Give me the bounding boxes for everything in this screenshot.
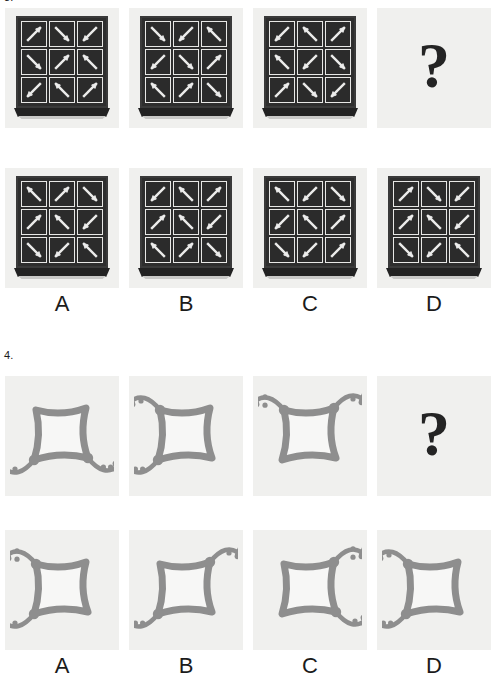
arrow-cell-ne-icon — [325, 237, 351, 263]
arrow-cell-nw-icon — [269, 49, 295, 75]
figure-tile — [5, 8, 119, 128]
option-letter-b: B — [179, 292, 194, 316]
test-page: 3. ? ABCD 4. ? ABCD — [0, 0, 498, 693]
arrow-cell-se-icon — [269, 237, 295, 263]
arrow-cell-ne-icon — [393, 209, 419, 235]
option-b[interactable]: B — [124, 168, 248, 316]
option-letter-c: C — [302, 292, 318, 316]
figure-tile[interactable] — [129, 530, 243, 650]
arrow-cell-nw-icon — [49, 77, 75, 103]
prompt-figure-2 — [124, 376, 248, 496]
arrow-grid-shadow — [16, 276, 108, 279]
arrow-cell-sw-icon — [21, 77, 47, 103]
arrow-cell-nw-icon — [77, 49, 103, 75]
blob-figure — [10, 384, 114, 488]
option-c[interactable]: C — [248, 168, 372, 316]
arrow-grid-shadow — [16, 116, 108, 119]
question-3-prompt-row: ? — [0, 8, 498, 128]
prompt-missing: ? — [372, 8, 496, 128]
option-letter-b: B — [179, 654, 194, 678]
option-letter-d: D — [426, 654, 442, 678]
arrow-cell-se-icon — [325, 49, 351, 75]
arrow-cell-se-icon — [201, 77, 227, 103]
arrow-grid — [14, 16, 110, 120]
arrow-cell-sw-icon — [77, 209, 103, 235]
arrow-grid-face — [264, 176, 356, 268]
arrow-cell-nw-icon — [173, 209, 199, 235]
arrow-grid-face — [264, 16, 356, 108]
blob-figure — [134, 384, 238, 488]
figure-tile[interactable] — [377, 530, 491, 650]
option-c[interactable]: C — [248, 530, 372, 678]
option-a[interactable]: A — [0, 168, 124, 316]
arrow-cell-se-icon — [21, 237, 47, 263]
arrow-cell-nw-icon — [145, 77, 171, 103]
arrow-grid-base — [262, 108, 358, 117]
blob-figure — [382, 538, 486, 642]
question-4-option-row: ABCD — [0, 530, 498, 678]
arrow-grid-shadow — [388, 276, 480, 279]
figure-tile[interactable] — [5, 530, 119, 650]
arrow-cell-ne-icon — [77, 77, 103, 103]
arrow-grid-face — [140, 16, 232, 108]
option-b[interactable]: B — [124, 530, 248, 678]
figure-tile — [129, 8, 243, 128]
arrow-cell-nw-icon — [145, 237, 171, 263]
arrow-grid-face — [16, 16, 108, 108]
arrow-cell-sw-icon — [173, 21, 199, 47]
arrow-cell-ne-icon — [201, 181, 227, 207]
option-letter-d: D — [426, 292, 442, 316]
arrow-grid-shadow — [264, 276, 356, 279]
arrow-cell-sw-icon — [449, 209, 475, 235]
arrow-cell-se-icon — [21, 49, 47, 75]
figure-tile[interactable] — [5, 168, 119, 288]
arrow-cell-sw-icon — [145, 49, 171, 75]
prompt-missing: ? — [372, 376, 496, 496]
arrow-cell-ne-icon — [201, 49, 227, 75]
arrow-cell-nw-icon — [201, 21, 227, 47]
arrow-cell-sw-icon — [77, 21, 103, 47]
arrow-grid-shadow — [140, 116, 232, 119]
figure-tile: ? — [377, 8, 491, 128]
blob-figure — [10, 538, 114, 642]
figure-tile[interactable] — [253, 530, 367, 650]
arrow-cell-nw-icon — [173, 181, 199, 207]
arrow-grid-face — [140, 176, 232, 268]
option-a[interactable]: A — [0, 530, 124, 678]
arrow-cell-sw-icon — [449, 181, 475, 207]
figure-tile[interactable] — [129, 168, 243, 288]
arrow-cell-sw-icon — [421, 237, 447, 263]
arrow-grid-base — [138, 268, 234, 277]
option-letter-a: A — [55, 292, 70, 316]
arrow-cell-sw-icon — [297, 49, 323, 75]
blob-figure — [134, 538, 238, 642]
arrow-cell-sw-icon — [145, 181, 171, 207]
arrow-cell-se-icon — [145, 21, 171, 47]
arrow-grid-base — [138, 108, 234, 117]
option-d[interactable]: D — [372, 530, 496, 678]
arrow-cell-ne-icon — [325, 21, 351, 47]
option-letter-a: A — [55, 654, 70, 678]
arrow-cell-ne-icon — [145, 209, 171, 235]
option-letter-c: C — [302, 654, 318, 678]
arrow-grid — [14, 176, 110, 280]
arrow-cell-nw-icon — [297, 21, 323, 47]
arrow-cell-sw-icon — [201, 209, 227, 235]
arrow-cell-se-icon — [173, 49, 199, 75]
figure-tile — [253, 8, 367, 128]
prompt-figure-3 — [248, 376, 372, 496]
arrow-cell-sw-icon — [49, 237, 75, 263]
blob-figure — [258, 384, 362, 488]
question-4-prompt-row: ? — [0, 376, 498, 496]
question-4-number: 4. — [4, 349, 14, 361]
figure-tile[interactable] — [253, 168, 367, 288]
arrow-cell-nw-icon — [449, 237, 475, 263]
option-d[interactable]: D — [372, 168, 496, 316]
prompt-figure-1 — [0, 8, 124, 128]
arrow-cell-ne-icon — [269, 77, 295, 103]
arrow-cell-se-icon — [297, 77, 323, 103]
figure-tile[interactable] — [377, 168, 491, 288]
question-mark-icon: ? — [418, 402, 450, 466]
figure-tile — [129, 376, 243, 496]
arrow-cell-sw-icon — [269, 209, 295, 235]
